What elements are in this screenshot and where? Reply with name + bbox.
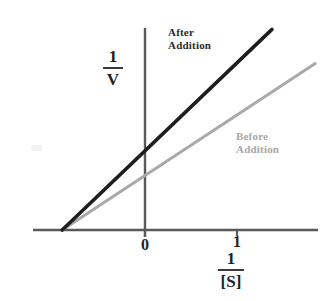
x-tick-label-zero: 0 (135, 236, 155, 254)
x-axis-label-numerator: 1 (218, 250, 244, 267)
x-axis-label: 1 [S] (218, 250, 244, 291)
y-axis-label-numerator: 1 (103, 48, 123, 65)
y-axis-label-fraction-bar (103, 67, 123, 69)
x-axis-label-denominator: [S] (218, 273, 244, 291)
y-axis-label-denominator: V (103, 71, 123, 89)
series-label-before-addition-line2: Addition (236, 143, 279, 156)
x-axis-label-fraction-bar (218, 269, 244, 271)
series-label-after-addition: After Addition (168, 26, 211, 51)
y-axis-label: 1 V (103, 48, 123, 89)
series-label-before-addition-line1: Before (236, 130, 279, 143)
series-label-after-addition-line2: Addition (168, 39, 211, 52)
series-label-before-addition: Before Addition (236, 130, 279, 155)
x-tick-label-one: 1 (227, 233, 247, 251)
lineweaver-burk-figure: 1 V 1 [S] 0 1 After Addition Before Addi… (0, 0, 336, 301)
series-label-after-addition-line1: After (168, 26, 211, 39)
